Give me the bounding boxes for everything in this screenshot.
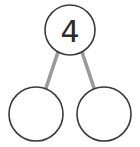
connector-whole-to-left-part xyxy=(45,52,58,91)
part-circle-left[interactable] xyxy=(9,87,63,141)
number-bond-diagram: 4 xyxy=(0,0,140,147)
connector-whole-to-right-part xyxy=(82,52,95,91)
number-bond-canvas: 4 xyxy=(0,0,140,147)
part-circle-right[interactable] xyxy=(77,87,131,141)
whole-value-label: 4 xyxy=(60,14,79,49)
